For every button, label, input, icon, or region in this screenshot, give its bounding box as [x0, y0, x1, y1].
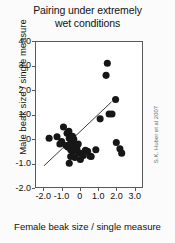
data-point: [56, 140, 63, 147]
chart-title-line-2: wet conditions: [8, 17, 167, 30]
data-point: [97, 115, 104, 122]
data-points: [46, 60, 126, 167]
y-tick-mark: [32, 188, 35, 189]
data-point: [118, 150, 125, 157]
chart-title-line-1: Pairing under extremely: [8, 4, 167, 17]
data-point: [104, 60, 111, 67]
x-tick-mark: [62, 188, 63, 191]
x-tick-mark: [116, 188, 117, 191]
x-tick-mark: [43, 188, 44, 191]
data-point: [108, 110, 115, 117]
data-point: [113, 139, 120, 146]
chart-figure: Pairing under extremely wet conditions -…: [0, 0, 175, 243]
data-point: [46, 135, 53, 142]
data-point: [103, 72, 110, 79]
x-tick-mark: [80, 188, 81, 191]
x-tick-mark: [98, 188, 99, 191]
chart-title: Pairing under extremely wet conditions: [8, 4, 167, 29]
data-point: [75, 140, 82, 147]
x-tick-mark: [135, 188, 136, 191]
data-point: [67, 153, 74, 160]
data-point: [88, 153, 95, 160]
data-point: [112, 96, 119, 103]
x-tick-label: 3.0: [122, 192, 148, 201]
source-credit: S.K. Huber et al 2007: [153, 100, 160, 170]
data-point: [92, 146, 99, 153]
x-axis-label: Female beak size / single measure: [0, 222, 175, 232]
scatter-plot-canvas: [36, 42, 142, 187]
data-point: [66, 160, 73, 167]
plot-area: [35, 41, 143, 188]
y-tick-label: -2.0: [0, 184, 31, 193]
y-axis-label: Male beak size / single measure: [18, 12, 28, 162]
